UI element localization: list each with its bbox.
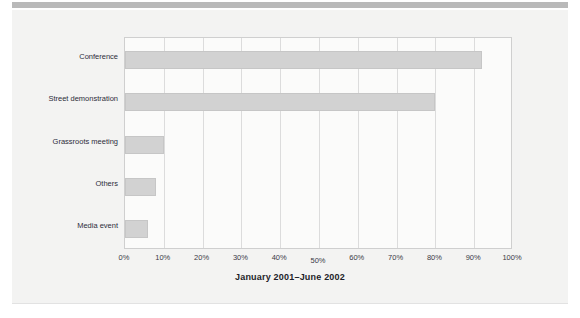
xtick-60: 60% [337, 253, 377, 262]
xtick-50: 50% [298, 256, 338, 265]
bar-chart-figure: Conference Street demonstration Grassroo… [0, 0, 580, 318]
bar-street-demonstration[interactable] [125, 93, 435, 111]
xtick-30: 30% [220, 253, 260, 262]
plot-area [124, 37, 512, 249]
axis-title: January 2001–June 2002 [0, 272, 580, 282]
gridline-30 [241, 38, 242, 248]
category-axis: Conference Street demonstration Grassroo… [0, 0, 118, 212]
chart-page: Conference Street demonstration Grassroo… [0, 0, 580, 318]
gridline-40 [280, 38, 281, 248]
bar-others[interactable] [125, 178, 156, 196]
xtick-90: 90% [453, 253, 493, 262]
xtick-70: 70% [376, 253, 416, 262]
xtick-10: 10% [143, 253, 183, 262]
xtick-80: 80% [414, 253, 454, 262]
category-label-media-event: Media event [8, 221, 118, 231]
bar-conference[interactable] [125, 51, 482, 69]
category-label-grassroots-meeting: Grassroots meeting [8, 137, 118, 147]
xtick-40: 40% [259, 253, 299, 262]
bar-grassroots-meeting[interactable] [125, 136, 164, 154]
gridline-10 [164, 38, 165, 248]
bar-media-event[interactable] [125, 220, 148, 238]
gridline-50 [319, 38, 320, 248]
category-label-street-demonstration: Street demonstration [8, 94, 118, 104]
xtick-20: 20% [182, 253, 222, 262]
gridline-20 [203, 38, 204, 248]
category-label-others: Others [8, 179, 118, 189]
gridline-80 [435, 38, 436, 248]
xtick-100: 100% [492, 253, 532, 262]
gridline-70 [397, 38, 398, 248]
category-label-conference: Conference [8, 52, 118, 62]
gridline-60 [358, 38, 359, 248]
gridline-90 [474, 38, 475, 248]
xtick-0: 0% [104, 253, 144, 262]
